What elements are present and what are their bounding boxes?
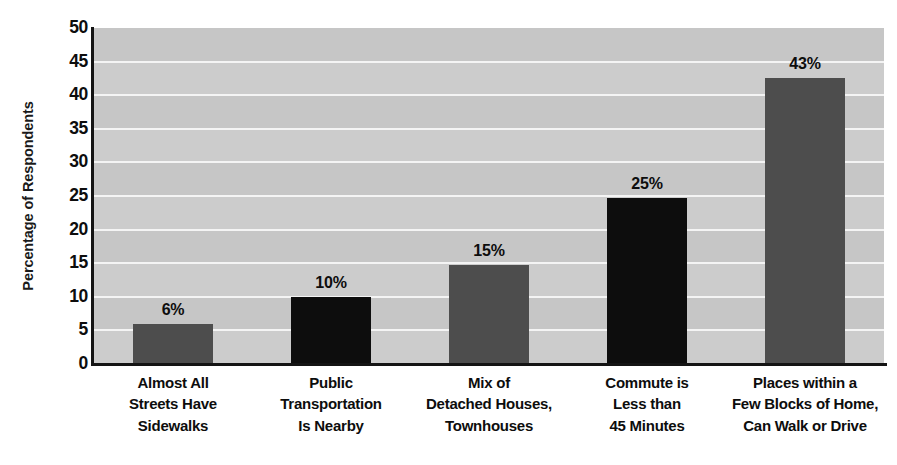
y-axis-tick-label: 20 [40,221,88,239]
y-axis-tick-label: 0 [40,355,88,373]
bar-chart: Percentage of Respondents 50454035302520… [0,0,897,465]
x-axis-line [91,363,887,366]
y-axis-tick-label: 25 [40,187,88,205]
bar-value-label: 15% [449,243,529,259]
x-axis-category-label: Commute isLess than45 Minutes [562,372,732,436]
category-label-line: Is Nearby [246,415,416,436]
x-axis-category-label: Places within aFew Blocks of Home,Can Wa… [720,372,890,436]
category-label-line: Mix of [404,372,574,393]
category-label-line: Public [246,372,416,393]
y-axis-tick-label: 15 [40,254,88,272]
x-axis-category-label: Almost AllStreets HaveSidewalks [88,372,258,436]
category-label-line: Streets Have [88,393,258,414]
bar-value-label: 10% [291,275,371,291]
x-axis-category-label: PublicTransportationIs Nearby [246,372,416,436]
category-label-line: Less than [562,393,732,414]
category-label-line: Sidewalks [88,415,258,436]
y-axis-tick-label: 5 [40,322,88,340]
category-label-line: Commute is [562,372,732,393]
category-label-line: Can Walk or Drive [720,415,890,436]
category-label-line: Almost All [88,372,258,393]
y-axis-tick-label: 35 [40,120,88,138]
category-label-line: 45 Minutes [562,415,732,436]
bar-value-label: 43% [765,56,845,72]
x-axis-category-labels: Almost AllStreets HaveSidewalksPublicTra… [94,372,884,462]
y-axis-tick-labels: 50454035302520151050 [40,28,88,364]
bar [133,324,213,364]
y-axis-tick-label: 45 [40,53,88,71]
bar-value-label: 25% [607,176,687,192]
category-label-line: Few Blocks of Home, [720,393,890,414]
y-axis-line [91,27,94,365]
bar-value-label: 6% [133,302,213,318]
y-axis-tick-label: 50 [40,19,88,37]
category-label-line: Townhouses [404,415,574,436]
y-axis-tick-label: 30 [40,154,88,172]
bar [765,78,845,364]
bar [607,198,687,364]
y-axis-tick-label: 40 [40,86,88,104]
y-axis-title: Percentage of Respondents [14,28,42,364]
x-axis-category-label: Mix ofDetached Houses,Townhouses [404,372,574,436]
category-label-line: Transportation [246,393,416,414]
y-axis-tick-label: 10 [40,288,88,306]
category-label-line: Detached Houses, [404,393,574,414]
bar [449,265,529,364]
bar [291,297,371,364]
category-label-line: Places within a [720,372,890,393]
